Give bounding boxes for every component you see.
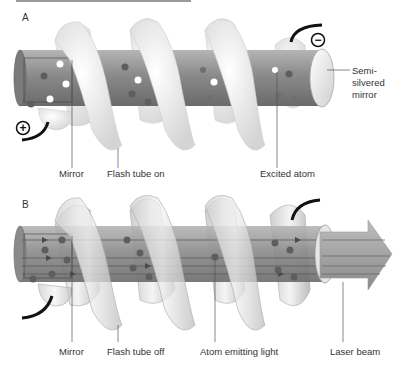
label-semi-mirror-2: silvered [352,77,385,88]
svg-text:−: − [314,33,321,47]
label-semi-mirror-1: Semi- [352,65,377,76]
panel-a: + − [14,19,350,168]
panel-b-title: B [22,199,29,210]
label-mirror-a: Mirror [59,168,84,179]
label-mirror-b: Mirror [59,346,84,357]
panel-b [14,195,392,342]
label-flash-tube-off: Flash tube off [107,346,164,357]
laser-diagram: + − [0,0,405,372]
label-flash-tube-on: Flash tube on [107,168,165,179]
panel-a-title: A [22,12,29,23]
label-laser-beam: Laser beam [330,346,380,357]
label-atom-emitting-light: Atom emitting light [200,346,278,357]
semi-silvered-mirror [310,49,334,107]
label-excited-atom: Excited atom [260,168,315,179]
label-semi-mirror-3: mirror [352,89,377,100]
svg-text:+: + [19,121,26,135]
